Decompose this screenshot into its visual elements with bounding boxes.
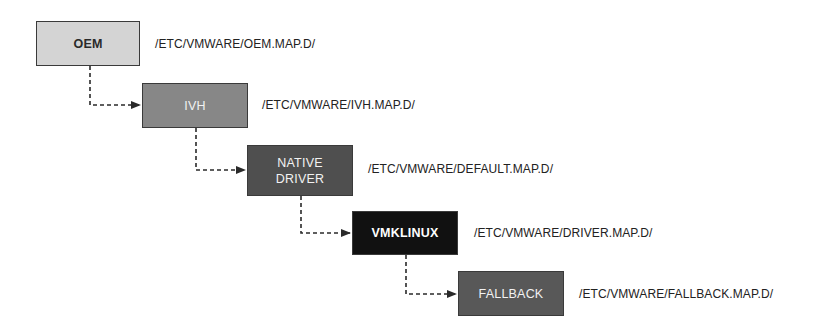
connector-vmklinux-fallback xyxy=(406,255,456,294)
connector-oem-ivh xyxy=(90,66,140,105)
path-ivh: /ETC/VMWARE/IVH.MAP.D/ xyxy=(262,98,415,112)
node-vmklinux-label: VMKLINUX xyxy=(372,225,439,241)
node-ivh-label: IVH xyxy=(184,98,205,114)
node-native-driver-label-line1: NATIVE xyxy=(277,155,322,171)
node-oem-label: OEM xyxy=(73,36,102,52)
node-fallback: FALLBACK xyxy=(458,271,564,316)
path-oem: /ETC/VMWARE/OEM.MAP.D/ xyxy=(155,37,315,51)
node-fallback-label: FALLBACK xyxy=(479,286,544,302)
node-vmklinux: VMKLINUX xyxy=(352,211,458,255)
path-fallback: /ETC/VMWARE/FALLBACK.MAP.D/ xyxy=(579,287,773,301)
connector-native-vmklinux xyxy=(301,196,350,233)
connector-ivh-native xyxy=(196,128,245,170)
path-vmklinux: /ETC/VMWARE/DRIVER.MAP.D/ xyxy=(474,226,653,240)
node-native-driver: NATIVE DRIVER xyxy=(247,145,353,196)
path-native-driver: /ETC/VMWARE/DEFAULT.MAP.D/ xyxy=(368,162,553,176)
node-native-driver-label-line2: DRIVER xyxy=(276,171,324,187)
node-oem: OEM xyxy=(36,21,140,66)
node-ivh: IVH xyxy=(142,83,248,128)
